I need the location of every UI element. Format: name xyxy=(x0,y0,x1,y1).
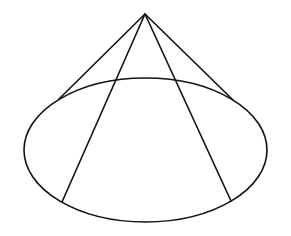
cone-inner-right-generator xyxy=(145,14,231,201)
cone-inner-left-generator xyxy=(62,14,145,202)
cone-diagram xyxy=(0,0,291,236)
cone-left-outline-line xyxy=(59,14,145,99)
cone-figure xyxy=(0,0,291,236)
cone-right-outline-line xyxy=(145,14,233,100)
